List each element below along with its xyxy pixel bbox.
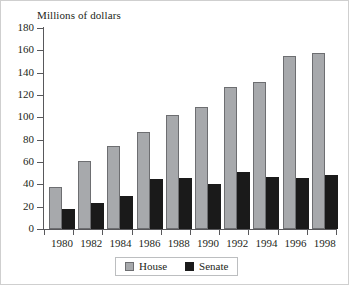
bar-house [224, 87, 237, 229]
x-tick-mark [336, 230, 337, 235]
chart-figure: Millions of dollars 18016014012010080604… [0, 0, 349, 285]
bar-senate [325, 175, 338, 229]
chart-axis-title: Millions of dollars [37, 9, 121, 21]
y-tick-label: 80 [23, 133, 34, 145]
y-tick-mark [37, 184, 43, 185]
bar-group [283, 28, 307, 229]
bar-group [253, 28, 277, 229]
bar-group [195, 28, 219, 229]
legend-swatch-icon [185, 262, 194, 271]
bar-group [224, 28, 248, 229]
legend-label: House [139, 260, 167, 272]
y-tick-label: 140 [18, 66, 35, 78]
y-tick-label: 40 [23, 177, 34, 189]
x-tick-mark [190, 230, 191, 235]
bar-house [49, 187, 62, 229]
y-tick-mark [37, 162, 43, 163]
bar-group [107, 28, 131, 229]
y-tick-label: 20 [23, 200, 34, 212]
bar-house [107, 146, 120, 229]
x-tick-mark [132, 230, 133, 235]
y-tick-mark [37, 229, 43, 230]
y-tick-mark [37, 73, 43, 74]
bar-group [137, 28, 161, 229]
y-tick-mark [37, 28, 43, 29]
bar-house [283, 56, 296, 229]
x-tick-mark [102, 230, 103, 235]
x-tick-mark [44, 230, 45, 235]
legend-label: Senate [199, 260, 228, 272]
bar-senate [120, 196, 133, 230]
x-tick-mark [248, 230, 249, 235]
y-tick: 20 [37, 207, 43, 208]
y-tick: 160 [37, 50, 43, 51]
bar-senate [62, 209, 75, 229]
chart-legend: HouseSenate [115, 257, 238, 276]
bar-senate [266, 177, 279, 229]
y-tick: 0 [37, 229, 43, 230]
y-tick-mark [37, 140, 43, 141]
legend-swatch-icon [125, 262, 134, 271]
bar-senate [208, 184, 221, 229]
bar-senate [150, 179, 163, 229]
y-tick-label: 0 [29, 222, 35, 234]
y-tick: 120 [37, 95, 43, 96]
x-tick-mark [219, 230, 220, 235]
bar-senate [237, 172, 250, 229]
y-tick-label: 180 [18, 21, 35, 33]
y-tick-label: 60 [23, 155, 34, 167]
y-tick-label: 100 [18, 110, 35, 122]
y-tick: 140 [37, 73, 43, 74]
y-tick-mark [37, 117, 43, 118]
bar-house [166, 115, 179, 229]
y-tick-mark [37, 95, 43, 96]
y-tick: 40 [37, 184, 43, 185]
x-tick-label: 1998 [306, 237, 344, 249]
plot-area [44, 28, 336, 229]
y-tick-label: 120 [18, 88, 35, 100]
bar-senate [296, 178, 309, 229]
bar-house [78, 161, 91, 229]
y-tick-mark [37, 207, 43, 208]
y-tick-label: 160 [18, 43, 35, 55]
legend-item-senate[interactable]: Senate [185, 260, 228, 272]
legend-item-house[interactable]: House [125, 260, 167, 272]
y-tick: 80 [37, 140, 43, 141]
bar-house [137, 132, 150, 229]
y-tick: 180 [37, 28, 43, 29]
x-tick-mark [161, 230, 162, 235]
bar-house [312, 53, 325, 229]
bar-group [49, 28, 73, 229]
bar-house [253, 82, 266, 229]
bar-senate [179, 178, 192, 229]
y-tick: 100 [37, 117, 43, 118]
bar-group [78, 28, 102, 229]
bar-group [312, 28, 336, 229]
x-tick-mark [278, 230, 279, 235]
bar-group [166, 28, 190, 229]
x-tick-mark [73, 230, 74, 235]
y-tick-mark [37, 50, 43, 51]
y-tick: 60 [37, 162, 43, 163]
bar-house [195, 107, 208, 229]
x-tick-mark [307, 230, 308, 235]
bar-senate [91, 203, 104, 229]
